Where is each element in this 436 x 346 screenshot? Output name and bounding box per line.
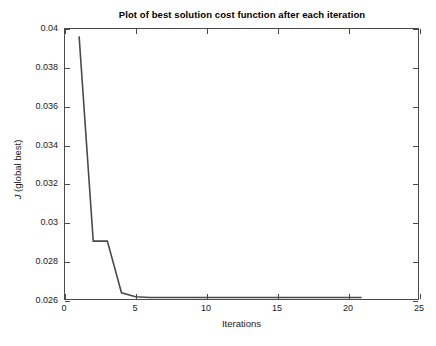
y-tick-mark-right xyxy=(413,68,418,69)
x-tick-label: 5 xyxy=(132,303,137,313)
x-tick-mark-top xyxy=(349,29,350,34)
y-tick-mark-right xyxy=(413,107,418,108)
y-tick-label: 0.04 xyxy=(40,23,58,33)
chart-figure: Plot of best solution cost function afte… xyxy=(0,0,436,346)
y-tick-mark-right xyxy=(413,223,418,224)
y-tick-label: 0.038 xyxy=(35,62,58,72)
x-tick-label: 20 xyxy=(343,303,353,313)
x-tick-mark-top xyxy=(420,29,421,34)
x-tick-mark xyxy=(207,294,208,299)
y-tick-mark-right xyxy=(413,29,418,30)
x-tick-mark xyxy=(349,294,350,299)
y-axis-tick-labels: 0.0260.0280.030.0320.0340.0360.0380.04 xyxy=(0,0,58,346)
x-tick-label: 25 xyxy=(414,303,424,313)
y-tick-label: 0.034 xyxy=(35,140,58,150)
y-tick-mark xyxy=(65,223,70,224)
x-tick-label: 10 xyxy=(201,303,211,313)
x-tick-mark-top xyxy=(65,29,66,34)
y-tick-label: 0.032 xyxy=(35,178,58,188)
y-tick-mark xyxy=(65,107,70,108)
y-tick-mark xyxy=(65,68,70,69)
chart-title: Plot of best solution cost function afte… xyxy=(64,9,420,20)
y-tick-mark xyxy=(65,301,70,302)
y-axis-label-symbol: J xyxy=(12,195,23,200)
y-tick-label: 0.036 xyxy=(35,101,58,111)
x-tick-mark xyxy=(420,294,421,299)
x-axis-label: Iterations xyxy=(64,318,419,329)
x-tick-mark-top xyxy=(278,29,279,34)
series-line-j-global-best xyxy=(79,36,361,297)
y-tick-mark xyxy=(65,146,70,147)
plot-area xyxy=(64,28,419,300)
x-tick-mark-top xyxy=(136,29,137,34)
y-axis-label: J (global best) xyxy=(12,120,23,220)
y-tick-mark xyxy=(65,184,70,185)
y-axis-label-rest: (global best) xyxy=(12,140,23,195)
y-tick-mark-right xyxy=(413,262,418,263)
y-tick-label: 0.028 xyxy=(35,256,58,266)
x-tick-mark-top xyxy=(207,29,208,34)
y-tick-mark-right xyxy=(413,184,418,185)
data-line-svg xyxy=(65,29,418,299)
x-tick-mark xyxy=(136,294,137,299)
x-axis-tick-labels: 0510152025 xyxy=(0,303,436,319)
x-tick-mark xyxy=(65,294,66,299)
y-tick-mark-right xyxy=(413,301,418,302)
y-tick-mark-right xyxy=(413,146,418,147)
x-tick-label: 15 xyxy=(272,303,282,313)
y-tick-mark xyxy=(65,262,70,263)
x-tick-label: 0 xyxy=(61,303,66,313)
x-tick-mark xyxy=(278,294,279,299)
y-tick-label: 0.03 xyxy=(40,217,58,227)
